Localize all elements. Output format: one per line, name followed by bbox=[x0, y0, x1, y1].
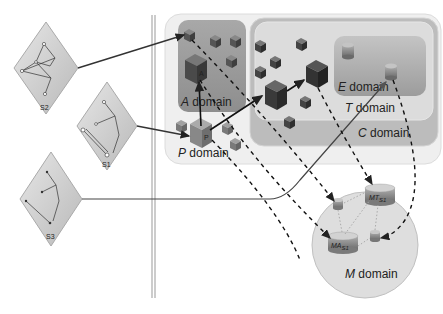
source-s3-label: S3 bbox=[46, 233, 55, 240]
svg-text:P: P bbox=[204, 134, 209, 141]
cylinder-m-small-2 bbox=[370, 230, 380, 242]
source-s1-label: S1 bbox=[102, 161, 111, 168]
source-s2[interactable]: S2 bbox=[14, 22, 78, 114]
cylinder-m-small-1 bbox=[333, 198, 343, 210]
t-domain-label: T domain bbox=[345, 101, 395, 115]
cylinder-e1 bbox=[342, 43, 354, 60]
source-s1[interactable]: S1 bbox=[77, 82, 137, 170]
separator-line bbox=[152, 15, 155, 298]
source-s3[interactable]: S3 bbox=[20, 152, 82, 246]
source-s2-label: S2 bbox=[40, 104, 49, 111]
cylinder-e2[interactable] bbox=[385, 64, 397, 81]
p-domain-label: P domain bbox=[178, 146, 229, 160]
cube-a-main[interactable]: A bbox=[185, 54, 207, 84]
c-domain-label: C domain bbox=[358, 126, 409, 140]
svg-text:A: A bbox=[199, 70, 204, 77]
cylinder-ma[interactable]: MAS1 bbox=[328, 232, 358, 254]
svg-text:T: T bbox=[320, 74, 325, 81]
cube-c-main[interactable] bbox=[265, 80, 287, 110]
a-domain-label: A domain bbox=[180, 95, 232, 109]
domain-diagram: S2 S1 S3 bbox=[0, 0, 443, 314]
m-domain-region bbox=[312, 192, 418, 298]
m-domain-label: M domain bbox=[345, 267, 398, 281]
cylinder-mt[interactable]: MTS1 bbox=[365, 184, 395, 206]
